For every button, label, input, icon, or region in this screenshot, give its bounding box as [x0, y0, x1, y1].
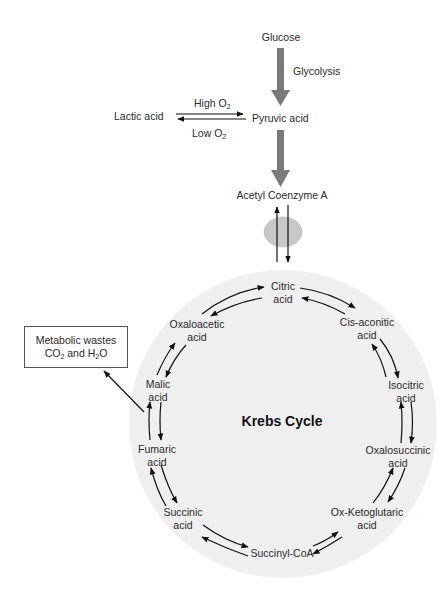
node-name: Cis-aconitic	[340, 316, 394, 329]
low-o2-subscript: 2	[222, 133, 226, 140]
node-line2: acid	[163, 519, 202, 532]
pyruvic-acid-label: Pyruvic acid	[252, 112, 309, 125]
node-name: Succinic	[163, 506, 202, 519]
high-o2-label: High O2	[194, 97, 231, 110]
node-oxaloacetic-acid: Oxaloaceticacid	[170, 318, 225, 343]
node-line2: acid	[366, 457, 431, 470]
node-name: Citric	[271, 280, 295, 293]
node-oxalosuccinic-acid: Oxalosuccinicacid	[366, 444, 431, 469]
and-h-text: and H	[64, 347, 95, 359]
node-line2: acid	[138, 456, 176, 469]
node-name: Malic	[146, 378, 171, 391]
node-malic-acid: Malicacid	[146, 378, 171, 403]
node-ox-ketoglutaric-acid: Ox-Ketoglutaricacid	[331, 506, 403, 531]
low-o2-label: Low O2	[192, 127, 226, 140]
node-line2: acid	[146, 391, 171, 404]
node-succinyl-coa: Succinyl-CoA	[250, 547, 313, 560]
krebs-cycle-title: Krebs Cycle	[242, 413, 323, 429]
wastes-line1: Metabolic wastes	[25, 334, 127, 347]
node-line2: acid	[340, 329, 394, 342]
node-name: Oxaloacetic	[170, 318, 225, 331]
pyruvate-to-acetylcoa-arrow-icon	[271, 130, 290, 187]
node-cis-aconitic-acid: Cis-aconiticacid	[340, 316, 394, 341]
glycolysis-label: Glycolysis	[293, 65, 340, 78]
high-o2-subscript: 2	[227, 103, 231, 110]
node-succinic-acid: Succinicacid	[163, 506, 202, 531]
o-text: O	[99, 347, 107, 359]
low-o2-text: Low O	[192, 127, 222, 139]
node-name: Succinyl-CoA	[250, 547, 313, 560]
node-citric-acid: Citricacid	[271, 280, 295, 305]
node-isocitric-acid: Isocitricacid	[388, 379, 424, 404]
node-name: Ox-Ketoglutaric	[331, 506, 403, 519]
diagram-canvas	[0, 0, 448, 591]
high-o2-text: High O	[194, 97, 227, 109]
acetyl-coa-label: Acetyl Coenzyme A	[236, 189, 327, 202]
node-name: Isocitric	[388, 379, 424, 392]
glycolysis-arrow-icon	[271, 48, 290, 106]
glucose-label: Glucose	[262, 31, 301, 44]
metabolic-wastes-box: Metabolic wastes CO2 and H2O	[24, 326, 128, 368]
node-fumaric-acid: Fumaricacid	[138, 443, 176, 468]
node-name: Oxalosuccinic	[366, 444, 431, 457]
mitochondrial-membrane-icon	[264, 217, 302, 247]
co2-text: CO	[45, 347, 61, 359]
lactic-acid-label: Lactic acid	[114, 110, 164, 123]
node-line2: acid	[388, 392, 424, 405]
node-line2: acid	[170, 331, 225, 344]
node-line2: acid	[331, 519, 403, 532]
wastes-line2: CO2 and H2O	[25, 347, 127, 360]
node-name: Fumaric	[138, 443, 176, 456]
node-line2: acid	[271, 293, 295, 306]
